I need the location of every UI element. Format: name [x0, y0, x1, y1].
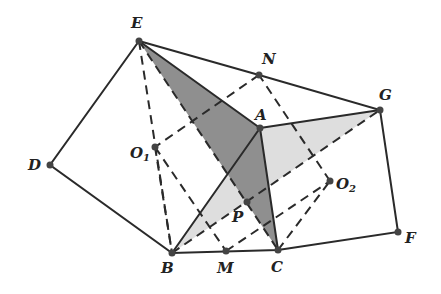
point-g — [377, 107, 384, 114]
point-f — [395, 229, 402, 236]
label-o2: O2 — [336, 175, 356, 194]
label-c: C — [271, 258, 283, 276]
label-d: D — [27, 156, 41, 174]
label-n: N — [261, 50, 277, 68]
label-e: E — [130, 14, 143, 32]
label-a: A — [253, 106, 267, 124]
point-a — [257, 125, 264, 132]
label-m: M — [216, 259, 234, 277]
point-b — [169, 250, 176, 257]
point-d — [47, 162, 54, 169]
label-f: F — [404, 229, 417, 247]
point-m — [223, 248, 230, 255]
point-c — [275, 247, 282, 254]
point-p — [244, 199, 251, 206]
label-g: G — [379, 86, 392, 104]
label-p: P — [231, 208, 244, 226]
geometry-diagram: E N G A O1 D O2 P B M C F — [0, 0, 441, 294]
point-o1 — [152, 144, 159, 151]
point-e — [136, 38, 143, 45]
point-n — [256, 72, 263, 79]
point-o2 — [327, 178, 334, 185]
label-o1: O1 — [130, 144, 150, 163]
label-b: B — [160, 259, 174, 277]
